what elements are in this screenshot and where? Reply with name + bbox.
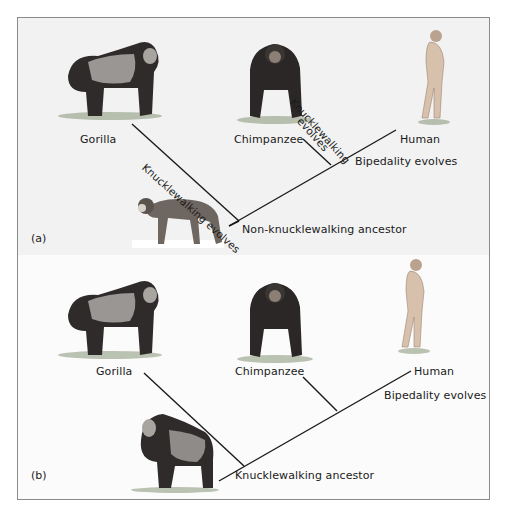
panel-a: Gorilla Chimpanzee Human Knucklewalking …: [18, 18, 489, 255]
taxon-label-human: Human: [400, 133, 440, 146]
human-illustration: [398, 259, 430, 354]
taxon-label-human: Human: [414, 365, 454, 378]
panel-tag-b: (b): [31, 469, 47, 482]
ancestor-label: Knucklewalking ancestor: [235, 469, 374, 482]
gorilla-illustration: [58, 281, 162, 359]
panel-tag-a: (a): [31, 232, 46, 245]
figure-frame: Gorilla Chimpanzee Human Knucklewalking …: [17, 17, 490, 500]
human-illustration: [418, 30, 450, 125]
knucklewalking-ancestor-illustration: [131, 414, 219, 493]
human-branch-annotation: Bipedality evolves: [355, 155, 457, 168]
taxon-label-gorilla: Gorilla: [96, 365, 132, 378]
human-branch-annotation: Bipedality evolves: [384, 389, 486, 402]
taxon-label-chimpanzee: Chimpanzee: [235, 365, 304, 378]
taxon-label-chimpanzee: Chimpanzee: [234, 133, 303, 146]
gorilla-illustration: [58, 42, 162, 120]
ancestor-label: Non-knucklewalking ancestor: [242, 223, 407, 236]
panel-b: Gorilla Chimpanzee Human Bipedality evol…: [18, 255, 489, 500]
taxon-label-gorilla: Gorilla: [80, 133, 116, 146]
chimpanzee-illustration: [237, 283, 313, 363]
